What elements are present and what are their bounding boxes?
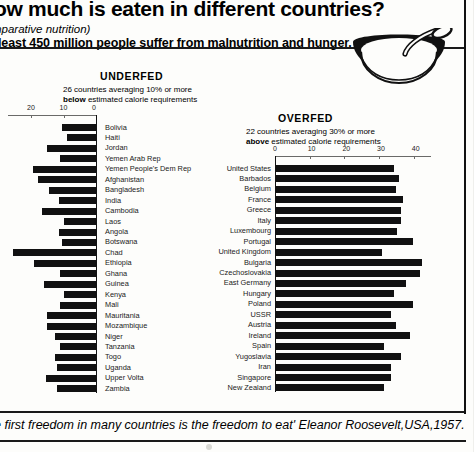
overfed-bar: [276, 249, 382, 256]
overfed-axis-tick-label: 10: [308, 145, 316, 152]
overfed-category-label: Ireland: [248, 331, 271, 340]
overfed-axis-tick: [379, 156, 380, 159]
underfed-category-label: Mali: [105, 300, 119, 309]
underfed-bar: [49, 187, 96, 194]
underfed-category-label: Bangladesh: [105, 185, 144, 194]
underfed-category-label: Cambodia: [105, 206, 139, 215]
page-right-border: [464, 0, 466, 414]
overfed-subtitle: 22 countries averaging 30% or more above…: [246, 127, 381, 146]
overfed-category-label: Austria: [248, 320, 271, 329]
overfed-bar: [276, 238, 413, 245]
underfed-axis-line: [8, 115, 96, 116]
overfed-axis-tick-label: 20: [342, 145, 350, 152]
underfed-category-label: Togo: [105, 352, 121, 361]
overfed-category-label: United States: [227, 164, 271, 173]
footer-quote: e first freedom in many countries is the…: [0, 418, 465, 432]
underfed-bar: [34, 260, 96, 267]
underfed-axis-tick-label: 10: [60, 104, 68, 111]
underfed-bar: [44, 281, 96, 288]
underfed-category-label: Haiti: [105, 133, 120, 142]
overfed-axis-tick: [344, 156, 345, 159]
underfed-category-label: Mozambique: [105, 321, 147, 330]
overfed-category-label: Barbados: [239, 174, 271, 183]
overfed-axis-tick: [414, 156, 415, 159]
underfed-bar: [55, 354, 96, 361]
underfed-bar: [57, 385, 96, 392]
overfed-bar: [276, 374, 391, 381]
overfed-category-label: Bulgaria: [244, 258, 271, 267]
overfed-category-label: USSR: [250, 310, 271, 319]
underfed-bar: [64, 291, 97, 298]
underfed-bar: [13, 249, 96, 256]
overfed-category-label: Czechoslovakia: [219, 268, 271, 277]
overfed-axis-tick-label: 0: [273, 145, 277, 152]
underfed-subtitle-emphasis: below: [63, 95, 86, 104]
underfed-title: UNDERFED: [100, 70, 163, 82]
overfed-bar: [276, 196, 403, 203]
underfed-category-label: Laos: [105, 217, 121, 226]
overfed-category-label: Iran: [258, 362, 271, 371]
underfed-bar: [47, 323, 96, 330]
underfed-axis-tick: [31, 115, 32, 118]
underfed-bar: [64, 218, 97, 225]
overfed-subtitle-line1: 22 countries averaging 30% or more: [246, 127, 375, 136]
overfed-bar: [276, 207, 401, 214]
overfed-bar: [276, 384, 384, 391]
underfed-bar: [60, 302, 96, 309]
underfed-axis-tick-label: 0: [92, 104, 96, 111]
overfed-category-label: Luxembourg: [230, 226, 271, 235]
overfed-category-label: New Zealand: [227, 383, 271, 392]
overfed-bar: [276, 217, 401, 224]
overfed-category-label: Poland: [248, 299, 271, 308]
overfed-bar: [276, 175, 399, 182]
overfed-bar: [276, 322, 396, 329]
overfed-bar: [276, 301, 413, 308]
overfed-bar: [276, 364, 391, 371]
underfed-bar: [42, 208, 96, 215]
underfed-category-label: Jordan: [105, 143, 128, 152]
underfed-category-label: Mauritania: [105, 311, 140, 320]
underfed-bar: [47, 312, 96, 319]
underfed-category-label: Niger: [105, 332, 123, 341]
overfed-bar: [276, 280, 406, 287]
underfed-bar: [47, 145, 96, 152]
quote-top-divider: [0, 411, 466, 413]
overfed-bar: [276, 186, 396, 193]
overfed-category-label: Hungary: [243, 289, 271, 298]
overfed-axis-line: [275, 156, 431, 157]
underfed-category-label: Yemen People's Dem Rep: [105, 164, 191, 173]
overfed-category-label: Portugal: [243, 237, 271, 246]
underfed-bar: [57, 364, 96, 371]
overfed-bar: [276, 270, 420, 277]
underfed-bar: [60, 155, 96, 162]
underfed-bar: [62, 124, 96, 131]
overfed-title: OVERFED: [278, 112, 333, 124]
underfed-category-label: India: [105, 196, 121, 205]
chart-overfed: OVERFED 22 countries averaging 30% or mo…: [228, 112, 474, 412]
overfed-bar: [276, 311, 391, 318]
underfed-bar: [46, 375, 96, 382]
underfed-subtitle-line1: 26 countries averaging 10% or more: [63, 85, 192, 94]
underfed-baseline: [96, 115, 97, 393]
underfed-category-label: Zambia: [105, 384, 130, 393]
underfed-category-label: Botswana: [105, 237, 137, 246]
underfed-bar: [55, 333, 96, 340]
underfed-bar: [67, 134, 96, 141]
overfed-bar: [276, 290, 394, 297]
overfed-axis-tick: [310, 156, 311, 159]
underfed-bar: [38, 176, 97, 183]
underfed-category-label: Kenya: [105, 290, 126, 299]
overfed-subtitle-line2: estimated calorie requirements: [269, 137, 381, 146]
footer-divider: [0, 440, 466, 442]
underfed-category-label: Upper Volta: [105, 373, 144, 382]
overfed-axis-tick-label: 30: [377, 145, 385, 152]
chart-underfed: UNDERFED 26 countries averaging 10% or m…: [0, 70, 250, 410]
page-title: ow much is eaten in different countries?: [0, 0, 385, 21]
underfed-category-label: Yemen Arab Rep: [105, 154, 161, 163]
page-subtitle: mparative nutrition): [0, 23, 90, 35]
overfed-category-label: France: [248, 195, 271, 204]
underfed-subtitle-line2: estimated calorie requirements: [86, 95, 198, 104]
bowl-with-spoon-icon: [345, 28, 463, 92]
overfed-subtitle-emphasis: above: [246, 137, 269, 146]
overfed-bar: [276, 228, 397, 235]
